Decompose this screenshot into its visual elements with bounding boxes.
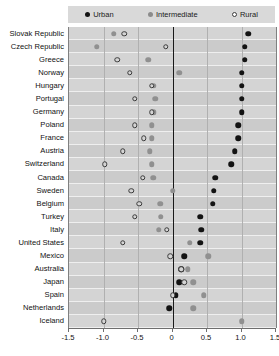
category-label: Turkey [0,213,64,221]
data-point-rural [120,149,126,155]
data-point-urban [239,109,245,115]
data-point-intermediate [187,240,193,246]
category-label: France [0,134,64,142]
data-point-rural [163,44,169,50]
data-point-rural [137,201,143,207]
x-axis-tick-label: 0 [169,334,173,342]
data-point-rural [149,109,155,115]
data-point-urban [239,83,245,89]
data-point-rural [181,279,187,285]
chart-legend: Urban Intermediate Rural [68,6,275,23]
data-point-intermediate [158,214,164,220]
data-point-rural [127,70,133,76]
x-axis-tick-label: -0.5 [130,334,143,342]
data-point-urban [166,306,172,312]
x-axis-tick [137,328,138,332]
data-point-rural [179,266,185,272]
category-label: Germany [0,108,64,116]
category-label: Sweden [0,187,64,195]
data-point-rural [141,135,147,141]
data-point-rural [132,214,138,220]
data-point-urban [242,44,248,50]
category-label: Japan [0,278,64,286]
data-point-urban [239,96,245,102]
category-label: Iceland [0,317,64,325]
grid-line [104,27,105,328]
data-point-rural [115,57,121,63]
data-point-intermediate [153,96,159,102]
category-label: Slovak Republic [0,30,64,38]
category-label: Belgium [0,200,64,208]
data-point-intermediate [170,188,176,194]
category-label: Netherlands [0,304,64,312]
data-point-urban [197,214,203,220]
data-point-urban [228,162,234,168]
data-point-intermediate [239,319,245,325]
data-point-rural [121,31,127,37]
urban-marker-icon [85,12,90,17]
x-axis-tick-label: -1.0 [96,334,109,342]
category-label: Hungary [0,82,64,90]
plot-area [68,27,277,328]
x-axis-tick [275,328,276,332]
category-label: Portugal [0,95,64,103]
category-label: Mexico [0,252,64,260]
data-point-urban [211,188,217,194]
data-point-urban [239,70,245,76]
data-point-rural [120,240,126,246]
data-point-intermediate [147,149,153,155]
data-point-urban [246,31,252,37]
x-axis-tick [103,328,104,332]
data-point-rural [101,319,107,325]
grid-line [138,27,139,328]
data-point-urban [210,201,216,207]
x-axis-tick [206,328,207,332]
data-point-urban [197,240,203,246]
category-label: Poland [0,121,64,129]
data-point-intermediate [157,201,163,207]
x-axis-tick [241,328,242,332]
legend-item-intermediate[interactable]: Intermediate [148,11,198,19]
category-label: Australia [0,265,64,273]
data-point-urban [213,175,219,181]
data-point-intermediate [149,135,155,141]
category-label: Spain [0,291,64,299]
zero-reference-line [173,27,174,328]
data-point-rural [102,162,108,168]
data-point-intermediate [177,70,183,76]
category-label: Czech Republic [0,43,64,51]
grid-line [207,27,208,328]
category-label: Austria [0,147,64,155]
data-point-rural [132,122,138,128]
data-point-intermediate [206,253,212,259]
scatter-chart: Urban Intermediate Rural Slovak Republic… [0,0,279,356]
data-point-urban [235,135,241,141]
category-label: Norway [0,69,64,77]
category-label: Greece [0,56,64,64]
data-point-intermediate [190,279,196,285]
data-point-rural [164,227,170,233]
legend-item-urban[interactable]: Urban [85,11,113,19]
legend-label-rural: Rural [240,11,258,19]
category-axis-labels: Slovak RepublicCzech RepublicGreeceNorwa… [0,27,64,328]
x-axis-tick-label: 1.5 [270,334,279,342]
data-point-intermediate [146,57,152,63]
data-point-rural [132,96,138,102]
data-point-intermediate [94,44,100,50]
data-point-intermediate [149,162,155,168]
data-point-urban [235,122,241,128]
data-point-urban [242,57,248,63]
data-point-intermediate [201,293,207,299]
category-label: Switzerland [0,160,64,168]
data-point-rural [170,293,176,299]
x-axis-tick [68,328,69,332]
legend-item-rural[interactable]: Rural [232,11,258,19]
data-point-urban [181,253,187,259]
data-point-rural [140,175,146,181]
category-label: Canada [0,174,64,182]
data-point-intermediate [156,227,162,233]
data-point-intermediate [111,31,117,37]
x-axis-tick-label: 1.0 [235,334,246,342]
data-point-rural [149,83,155,89]
x-axis-tick-label: -1.5 [61,334,74,342]
